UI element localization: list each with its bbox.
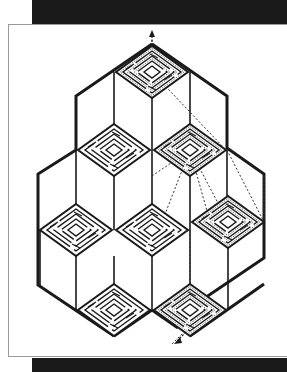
maze-diagram [0,0,287,372]
maze-right [192,196,264,248]
maze-upper-left [78,124,150,176]
maze-left [40,204,112,256]
maze-upper-right [154,124,226,176]
entry-arrow-icon [174,332,186,344]
maze-bottom-left [78,284,150,336]
cube-edges [40,72,264,310]
maze-top [116,46,188,98]
exit-arrow-icon [149,30,155,46]
maze-center [116,204,188,256]
